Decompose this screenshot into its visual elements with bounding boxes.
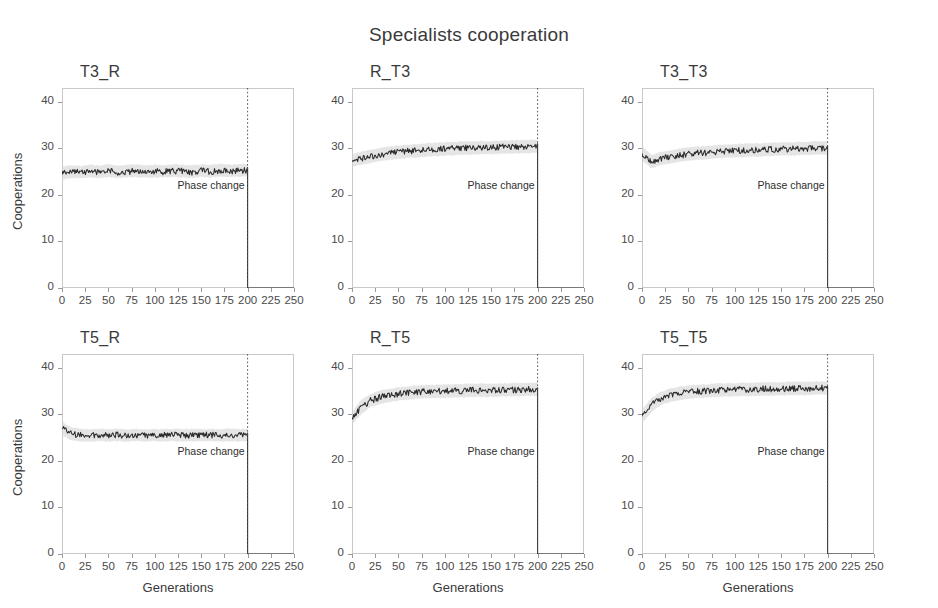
- y-tick-label: 20: [608, 187, 634, 199]
- y-tick-label: 20: [608, 453, 634, 465]
- y-axis-label: Cooperations: [10, 419, 25, 496]
- data-trace: [352, 144, 584, 288]
- y-tick-label: 30: [608, 140, 634, 152]
- x-tick-mark: [271, 288, 272, 292]
- x-tick-mark: [201, 288, 202, 292]
- y-tick-label: 10: [318, 499, 344, 511]
- y-tick-label: 30: [608, 406, 634, 418]
- panel-title: T3_R: [80, 63, 120, 81]
- y-tick-label: 0: [28, 546, 54, 558]
- data-trace: [642, 146, 874, 288]
- y-tick-label: 40: [608, 360, 634, 372]
- x-tick-mark: [538, 288, 539, 292]
- panel-r_t3: R_T3Phase change010203040025507510012515…: [352, 88, 584, 288]
- confidence-band: [352, 139, 538, 166]
- x-tick-label: 250: [278, 294, 310, 306]
- y-tick-mark: [58, 148, 62, 149]
- x-tick-mark: [758, 288, 759, 292]
- x-tick-mark: [178, 288, 179, 292]
- y-tick-mark: [58, 195, 62, 196]
- confidence-band: [62, 422, 248, 443]
- x-tick-mark: [422, 288, 423, 292]
- y-tick-label: 20: [318, 187, 344, 199]
- x-tick-mark: [642, 288, 643, 292]
- x-tick-mark: [712, 554, 713, 558]
- phase-change-label: Phase change: [757, 445, 824, 457]
- x-tick-mark: [514, 288, 515, 292]
- x-tick-mark: [445, 554, 446, 558]
- y-tick-label: 0: [318, 280, 344, 292]
- data-trace: [352, 386, 584, 554]
- x-tick-mark: [874, 288, 875, 292]
- x-tick-mark: [248, 554, 249, 558]
- x-tick-label: 250: [568, 294, 600, 306]
- x-tick-mark: [224, 288, 225, 292]
- x-tick-mark: [828, 288, 829, 292]
- x-tick-mark: [561, 288, 562, 292]
- x-tick-mark: [155, 288, 156, 292]
- y-tick-mark: [58, 241, 62, 242]
- y-tick-label: 10: [318, 233, 344, 245]
- x-axis-label: Generations: [62, 580, 294, 595]
- x-tick-mark: [491, 288, 492, 292]
- x-tick-mark: [445, 288, 446, 292]
- panel-title: T5_R: [80, 329, 120, 347]
- y-tick-label: 0: [608, 546, 634, 558]
- y-tick-mark: [638, 195, 642, 196]
- phase-change-label: Phase change: [177, 445, 244, 457]
- y-tick-label: 30: [28, 406, 54, 418]
- y-tick-mark: [58, 102, 62, 103]
- x-tick-mark: [804, 288, 805, 292]
- x-tick-label: 250: [858, 560, 890, 572]
- phase-change-label: Phase change: [467, 179, 534, 191]
- x-tick-mark: [491, 554, 492, 558]
- x-tick-mark: [851, 288, 852, 292]
- y-tick-mark: [348, 368, 352, 369]
- x-tick-mark: [735, 554, 736, 558]
- x-tick-mark: [375, 554, 376, 558]
- x-tick-mark: [375, 288, 376, 292]
- x-tick-mark: [642, 554, 643, 558]
- x-tick-mark: [271, 554, 272, 558]
- x-tick-mark: [735, 288, 736, 292]
- y-tick-mark: [348, 414, 352, 415]
- x-tick-mark: [781, 554, 782, 558]
- y-tick-label: 0: [608, 280, 634, 292]
- x-tick-mark: [514, 554, 515, 558]
- y-tick-label: 30: [318, 140, 344, 152]
- x-tick-mark: [178, 554, 179, 558]
- y-tick-label: 40: [318, 94, 344, 106]
- y-tick-mark: [638, 461, 642, 462]
- y-tick-mark: [348, 102, 352, 103]
- panel-title: R_T5: [370, 329, 410, 347]
- y-tick-label: 30: [28, 140, 54, 152]
- data-trace: [642, 385, 874, 554]
- y-tick-label: 20: [318, 453, 344, 465]
- x-tick-mark: [294, 288, 295, 292]
- x-tick-mark: [804, 554, 805, 558]
- y-tick-mark: [348, 195, 352, 196]
- y-tick-label: 40: [28, 94, 54, 106]
- x-tick-mark: [781, 288, 782, 292]
- x-tick-mark: [62, 554, 63, 558]
- y-tick-label: 10: [28, 499, 54, 511]
- y-tick-mark: [348, 461, 352, 462]
- x-tick-mark: [224, 554, 225, 558]
- y-tick-mark: [58, 461, 62, 462]
- x-tick-mark: [851, 554, 852, 558]
- y-tick-label: 0: [28, 280, 54, 292]
- x-tick-mark: [352, 288, 353, 292]
- x-tick-mark: [688, 554, 689, 558]
- x-tick-mark: [874, 554, 875, 558]
- x-tick-mark: [132, 554, 133, 558]
- panel-t3_r: T3_RPhase change010203040025507510012515…: [62, 88, 294, 288]
- x-tick-label: 250: [858, 294, 890, 306]
- y-tick-label: 0: [318, 546, 344, 558]
- y-tick-label: 30: [318, 406, 344, 418]
- x-axis-label: Generations: [642, 580, 874, 595]
- y-tick-mark: [348, 507, 352, 508]
- panel-r_t5: R_T5Phase change010203040025507510012515…: [352, 354, 584, 554]
- y-axis-label: Cooperations: [10, 153, 25, 230]
- panel-title: R_T3: [370, 63, 410, 81]
- y-tick-mark: [58, 507, 62, 508]
